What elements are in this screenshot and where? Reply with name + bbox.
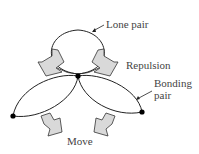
- right-atom-dot: [139, 109, 144, 114]
- lone-pair-label: Lone pair: [106, 18, 148, 30]
- bonding-pair-label-line2: pair: [154, 89, 171, 101]
- lone-pair-leader-arrowhead: [92, 28, 96, 32]
- move-arrow-right-icon: [94, 113, 115, 136]
- move-label: Move: [67, 135, 93, 147]
- move-arrow-left-icon: [41, 113, 62, 136]
- central-atom-dot: [75, 73, 80, 78]
- repulsion-label: Repulsion: [126, 59, 171, 71]
- bonding-pair-right-lobe: [78, 75, 142, 113]
- left-atom-dot: [10, 113, 15, 118]
- bonding-pair-label-line1: Bonding: [154, 77, 192, 89]
- bonding-pair-left-lobe: [13, 75, 78, 116]
- bonding-pair-leader-line: [137, 91, 152, 99]
